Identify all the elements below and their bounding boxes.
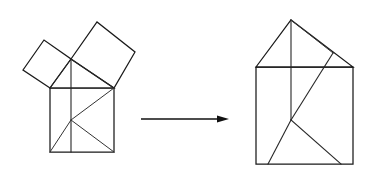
right-long-diagonal-cut — [291, 53, 333, 120]
pythagorean-dissection-svg — [0, 0, 380, 182]
right-hypotenuse-square — [256, 67, 353, 164]
right-roof-triangle — [256, 20, 353, 67]
left-diagonal-cut-right — [71, 120, 114, 152]
left-diagonal-cut-upper — [71, 88, 114, 120]
right-figure-group — [256, 20, 353, 164]
right-lower-left-cut — [268, 120, 291, 164]
left-leg-square-large — [71, 22, 135, 88]
diagram-canvas — [0, 0, 380, 182]
left-leg-square-small — [23, 40, 71, 88]
transformation-arrow-head — [217, 115, 229, 122]
transformation-arrow-group — [141, 115, 229, 122]
left-right-triangle — [50, 59, 114, 88]
right-roof-right-cut — [291, 20, 333, 53]
right-lower-right-cut — [291, 120, 341, 164]
left-diagonal-cut-lower — [50, 120, 71, 152]
left-figure-group — [23, 22, 135, 152]
left-hypotenuse-square — [50, 88, 114, 152]
